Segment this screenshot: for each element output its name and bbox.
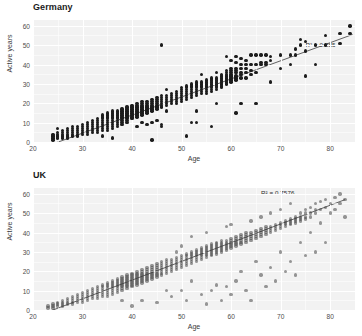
gridline-minor-horizontal (33, 113, 355, 114)
gridline-major-vertical (33, 20, 34, 142)
gridline-major-horizontal (33, 271, 355, 272)
x-tick-label: 80 (327, 313, 334, 320)
y-tick-label: 0 (3, 307, 30, 314)
facet-germany: Germany 0102030405060 R² = 0.885 2030405… (0, 0, 362, 168)
x-tick-label: 20 (29, 313, 36, 320)
x-tick-label: 60 (227, 145, 234, 152)
gridline-major-vertical (132, 188, 133, 310)
gridline-minor-horizontal (33, 223, 355, 224)
x-tick-label: 40 (128, 145, 135, 152)
facet-title-germany: Germany (33, 2, 73, 12)
r-squared-label-uk: R² = 0.7576 (261, 189, 295, 196)
gridline-major-vertical (330, 20, 331, 142)
gridline-minor-horizontal (33, 300, 355, 301)
y-tick-label: 0 (3, 139, 30, 146)
gridline-minor-horizontal (33, 132, 355, 133)
gridline-major-horizontal (33, 194, 355, 195)
gridline-major-vertical (132, 20, 133, 142)
gridline-minor-horizontal (33, 203, 355, 204)
y-axis-title-germany: Active years (6, 19, 13, 89)
gridline-minor-horizontal (33, 281, 355, 282)
gridline-major-vertical (231, 20, 232, 142)
gridline-minor-vertical (107, 188, 108, 310)
gridline-major-vertical (281, 188, 282, 310)
x-tick-label: 50 (178, 313, 185, 320)
gridline-minor-horizontal (33, 74, 355, 75)
gridline-major-horizontal (33, 65, 355, 66)
gridline-minor-vertical (256, 188, 257, 310)
x-tick-label: 30 (79, 145, 86, 152)
gridline-major-vertical (281, 20, 282, 142)
gridline-major-vertical (330, 188, 331, 310)
gridline-minor-vertical (206, 20, 207, 142)
facet-uk: UK 0102030405060 R² = 0.7576 20304050607… (0, 168, 362, 336)
y-axis-uk: 0102030405060 (0, 188, 30, 310)
gridline-minor-vertical (58, 188, 59, 310)
x-axis-title-uk: Age (33, 323, 355, 330)
scatter-figure: Germany 0102030405060 R² = 0.885 2030405… (0, 0, 362, 336)
x-tick-label: 80 (327, 145, 334, 152)
gridline-minor-horizontal (33, 55, 355, 56)
gridline-minor-vertical (157, 188, 158, 310)
x-tick-label: 50 (178, 145, 185, 152)
plot-panel-germany: R² = 0.885 (33, 20, 355, 142)
plot-panel-uk: R² = 0.7576 (33, 188, 355, 310)
gridline-major-horizontal (33, 291, 355, 292)
facet-title-uk: UK (33, 170, 46, 180)
gridline-major-horizontal (33, 26, 355, 27)
gridline-minor-vertical (157, 20, 158, 142)
gridline-major-vertical (83, 20, 84, 142)
gridline-minor-vertical (58, 20, 59, 142)
gridline-minor-vertical (305, 20, 306, 142)
y-tick-label: 10 (3, 119, 30, 126)
gridline-major-horizontal (33, 103, 355, 104)
x-tick-label: 70 (277, 145, 284, 152)
gridline-minor-horizontal (33, 35, 355, 36)
gridline-minor-horizontal (33, 242, 355, 243)
x-tick-label: 60 (227, 313, 234, 320)
gridline-minor-vertical (206, 188, 207, 310)
y-axis-germany: 0102030405060 (0, 20, 30, 142)
gridline-minor-vertical (305, 188, 306, 310)
gridline-major-horizontal (33, 84, 355, 85)
x-tick-label: 40 (128, 313, 135, 320)
x-axis-title-germany: Age (33, 155, 355, 162)
trend-line-germany (33, 20, 355, 142)
gridline-major-horizontal (33, 123, 355, 124)
gridline-minor-horizontal (33, 262, 355, 263)
gridline-minor-vertical (256, 20, 257, 142)
gridline-major-vertical (231, 188, 232, 310)
y-tick-label: 20 (3, 100, 30, 107)
gridline-major-vertical (182, 20, 183, 142)
gridline-major-horizontal (33, 45, 355, 46)
gridline-minor-vertical (107, 20, 108, 142)
x-tick-label: 30 (79, 313, 86, 320)
y-tick-label: 10 (3, 287, 30, 294)
x-tick-label: 20 (29, 145, 36, 152)
x-tick-label: 70 (277, 313, 284, 320)
trend-line-uk (33, 188, 355, 310)
gridline-major-horizontal (33, 252, 355, 253)
y-tick-label: 20 (3, 268, 30, 275)
gridline-major-vertical (182, 188, 183, 310)
gridline-major-horizontal (33, 233, 355, 234)
gridline-major-horizontal (33, 213, 355, 214)
gridline-minor-horizontal (33, 94, 355, 95)
y-axis-title-uk: Active years (6, 187, 13, 257)
gridline-major-vertical (33, 188, 34, 310)
gridline-major-vertical (83, 188, 84, 310)
